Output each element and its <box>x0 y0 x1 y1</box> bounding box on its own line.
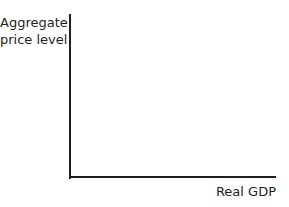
y-axis-label: Aggregate price level <box>0 14 66 48</box>
x-axis-label: Real GDP <box>216 184 276 200</box>
y-axis-label-line1: Aggregate <box>0 14 66 31</box>
x-axis-line <box>69 176 276 178</box>
y-axis-label-line2: price level <box>0 31 66 48</box>
y-axis-line <box>69 14 71 179</box>
